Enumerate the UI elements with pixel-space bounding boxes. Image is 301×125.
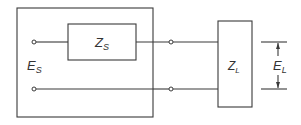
source-impedance-label: ZS <box>94 35 109 52</box>
load-impedance-label: ZL <box>227 59 240 75</box>
source-top-terminal <box>32 40 36 44</box>
circuit-diagram: ZS ES ZL EL <box>0 0 301 125</box>
arrow-down-icon <box>276 82 280 88</box>
arrow-up-icon <box>276 43 280 49</box>
source-bottom-terminal <box>32 87 36 91</box>
source-voltage-label: ES <box>27 58 42 75</box>
output-top-terminal <box>169 40 173 44</box>
load-voltage-label: EL <box>273 58 287 75</box>
output-bottom-terminal <box>169 87 173 91</box>
